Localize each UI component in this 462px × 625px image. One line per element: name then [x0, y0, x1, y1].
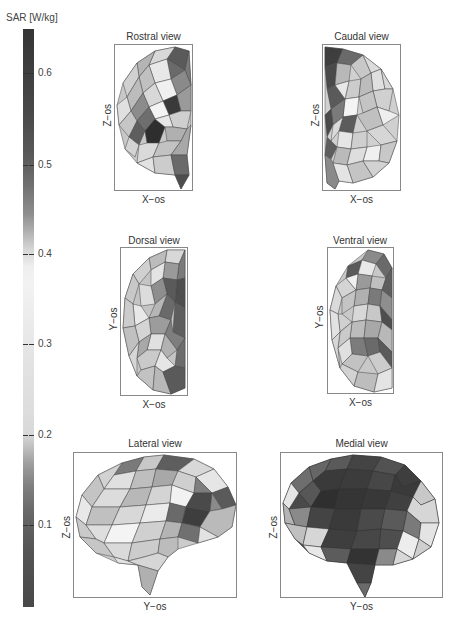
dorsal-view-title: Dorsal view: [114, 235, 194, 246]
dorsal-view-plot: [120, 247, 188, 396]
lateral-brain-mesh: [74, 453, 236, 597]
caudal-view-xlabel: X−os: [322, 194, 401, 205]
lateral-view-plot: [73, 452, 237, 598]
colorbar-label: SAR [W/kg]: [6, 12, 58, 23]
tick-mark: [23, 254, 28, 255]
tick-label-0.1: 0.1: [38, 519, 52, 530]
rostral-view-xlabel: X−os: [114, 194, 193, 205]
ventral-view-title: Ventral view: [320, 235, 400, 246]
tick-mark: [29, 525, 34, 526]
dorsal-view-xlabel: X−os: [120, 399, 188, 410]
medial-view-title: Medial view: [280, 438, 443, 449]
rostral-view-ylabel: Z−os: [102, 97, 113, 127]
dorsal-brain-mesh: [121, 248, 187, 395]
medial-view-ylabel: Z−os: [268, 509, 279, 539]
ventral-view-ylabel: Y−os: [314, 299, 325, 329]
tick-label-0.2: 0.2: [38, 429, 52, 440]
tick-mark: [29, 73, 34, 74]
dorsal-view-ylabel: Y−os: [108, 301, 119, 331]
tick-mark: [29, 165, 34, 166]
medial-brain-mesh: [281, 453, 442, 597]
tick-mark: [23, 73, 28, 74]
caudal-view-ylabel: Z−os: [310, 97, 321, 127]
lateral-view-title: Lateral view: [73, 438, 237, 449]
tick-mark: [29, 344, 34, 345]
ventral-view-plot: [327, 247, 394, 394]
tick-label-0.4: 0.4: [38, 248, 52, 259]
rostral-brain-mesh: [115, 45, 192, 190]
rostral-view-title: Rostral view: [114, 31, 193, 42]
caudal-view-plot: [322, 44, 401, 191]
ventral-brain-mesh: [328, 248, 393, 393]
medial-view-xlabel: Y−os: [280, 601, 443, 612]
tick-mark: [29, 435, 34, 436]
tick-mark: [29, 254, 34, 255]
lateral-view-xlabel: Y−os: [73, 601, 237, 612]
tick-label-0.3: 0.3: [38, 338, 52, 349]
colorbar: [23, 29, 34, 607]
tick-mark: [23, 435, 28, 436]
lateral-view-ylabel: Z−os: [61, 509, 72, 539]
caudal-view-title: Caudal view: [322, 31, 401, 42]
tick-label-0.6: 0.6: [38, 67, 52, 78]
tick-label-0.5: 0.5: [38, 159, 52, 170]
tick-mark: [23, 165, 28, 166]
rostral-view-plot: [114, 44, 193, 191]
medial-view-plot: [280, 452, 443, 598]
caudal-brain-mesh: [323, 45, 400, 190]
tick-mark: [23, 525, 28, 526]
tick-mark: [23, 344, 28, 345]
ventral-view-xlabel: X−os: [327, 397, 394, 408]
